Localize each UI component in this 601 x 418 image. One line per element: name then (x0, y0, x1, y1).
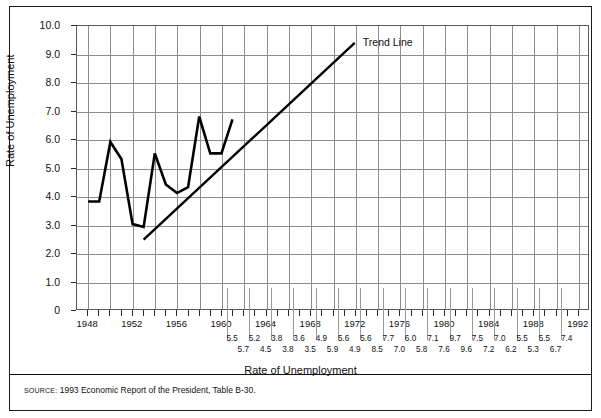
x-axis-tick (388, 310, 389, 316)
x-axis-tick (277, 310, 278, 316)
value-cell-upper: 3.8 (271, 334, 282, 343)
x-axis-tick (500, 310, 501, 316)
y-axis-tick (71, 139, 76, 140)
value-cell-upper: 5.2 (249, 334, 260, 343)
value-cell-upper: 6.0 (405, 334, 416, 343)
y-axis-tick-label: 5.0 (45, 162, 60, 174)
x-axis-tick (544, 310, 545, 316)
x-axis-tick (143, 310, 144, 316)
x-axis-tick-label: 1956 (166, 318, 187, 329)
x-axis-tick (210, 310, 211, 316)
value-cell-upper: 5.5 (539, 334, 550, 343)
x-axis-tick (366, 310, 367, 316)
value-column-divider (316, 288, 317, 340)
x-axis-tick (344, 310, 345, 316)
y-axis-tick-label: 9.0 (45, 48, 60, 60)
x-axis-tick (399, 310, 400, 316)
unemployment-line (88, 117, 232, 227)
y-axis-tick (71, 25, 76, 26)
y-axis-tick-label: 7.0 (45, 105, 60, 117)
x-axis-tick-label: 1988 (523, 318, 544, 329)
value-cell-lower: 5.3 (528, 345, 539, 354)
value-cell-lower: 4.5 (260, 345, 271, 354)
value-cell-lower: 6.2 (505, 345, 516, 354)
value-column-divider (427, 288, 428, 340)
value-column-divider (338, 288, 339, 340)
y-axis-tick-label: 10.0 (40, 19, 60, 31)
value-column-divider (360, 288, 361, 340)
value-column-divider (293, 288, 294, 340)
value-cell-lower: 8.5 (371, 345, 382, 354)
y-axis-tick (71, 111, 76, 112)
y-axis-tick-label: 4.0 (45, 190, 60, 202)
value-cell-lower: 7.0 (394, 345, 405, 354)
value-column-divider (517, 288, 518, 340)
x-axis-tick (489, 310, 490, 316)
x-axis-tick (377, 310, 378, 316)
value-column-divider (539, 288, 540, 340)
y-axis-title: Rate of Unemployment (4, 55, 16, 168)
value-cell-upper: 7.4 (561, 334, 572, 343)
x-axis-tick (266, 310, 267, 316)
x-axis-tick (288, 310, 289, 316)
x-axis-tick (411, 310, 412, 316)
value-cell-lower: 3.8 (282, 345, 293, 354)
y-axis-tick (71, 310, 76, 311)
y-axis-tick (71, 168, 76, 169)
x-axis-tick (466, 310, 467, 316)
x-axis-tick (321, 310, 322, 316)
y-axis-tick (71, 282, 76, 283)
value-cell-lower: 7.2 (483, 345, 494, 354)
value-cell-upper: 5.5 (226, 334, 237, 343)
y-axis-tick-label: 3.0 (45, 219, 60, 231)
x-axis-tick (109, 310, 110, 316)
x-axis-tick-label: 1960 (210, 318, 231, 329)
y-axis-tick (71, 82, 76, 83)
x-axis-tick (154, 310, 155, 316)
x-axis-tick-label: 1980 (433, 318, 454, 329)
x-axis-tick (176, 310, 177, 316)
plot-area (76, 25, 589, 310)
x-axis-tick (165, 310, 166, 316)
value-column-divider (227, 288, 228, 340)
value-column-divider (561, 288, 562, 340)
value-cell-lower: 4.9 (349, 345, 360, 354)
x-axis-tick (221, 310, 222, 316)
x-axis-tick-label: 1972 (344, 318, 365, 329)
y-axis-tick-label: 0 (54, 304, 60, 316)
value-cell-upper: 5.6 (338, 334, 349, 343)
value-cell-upper: 4.9 (316, 334, 327, 343)
x-axis-tick-label: 1992 (567, 318, 588, 329)
value-cell-upper: 9.7 (449, 334, 460, 343)
x-axis-tick (455, 310, 456, 316)
x-axis-tick (578, 310, 579, 316)
x-axis-tick (333, 310, 334, 316)
y-axis-tick-label: 6.0 (45, 133, 60, 145)
x-axis-tick (87, 310, 88, 316)
x-axis-tick (556, 310, 557, 316)
x-axis-tick (132, 310, 133, 316)
x-axis-tick (121, 310, 122, 316)
value-cell-lower: 7.6 (438, 345, 449, 354)
value-cell-lower: 3.5 (304, 345, 315, 354)
value-cell-lower: 5.8 (416, 345, 427, 354)
x-axis-tick (299, 310, 300, 316)
value-cell-lower: 6.7 (550, 345, 561, 354)
x-axis-tick-label: 1976 (389, 318, 410, 329)
x-axis-tick-label: 1964 (255, 318, 276, 329)
value-column-divider (494, 288, 495, 340)
x-axis-tick (310, 310, 311, 316)
y-axis-tick-label: 2.0 (45, 247, 60, 259)
value-cell-upper: 7.1 (427, 334, 438, 343)
y-axis-tick (71, 196, 76, 197)
value-column-divider (450, 288, 451, 340)
value-cell-upper: 7.0 (494, 334, 505, 343)
chart-figure: Rate of Unemployment Trend Line 01.02.03… (10, 7, 591, 373)
source-note-text: SOURCE: 1993 Economic Report of the Pres… (24, 385, 256, 395)
y-axis-tick (71, 253, 76, 254)
x-axis-tick-label: 1948 (77, 318, 98, 329)
x-axis-tick (98, 310, 99, 316)
x-axis-tick (477, 310, 478, 316)
value-cell-lower: 9.6 (461, 345, 472, 354)
series-lines (77, 26, 588, 309)
